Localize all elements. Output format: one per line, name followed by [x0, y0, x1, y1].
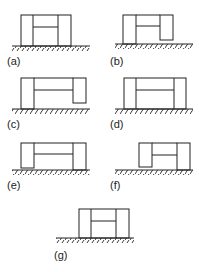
panel-a-label: (a): [7, 56, 20, 67]
panel-f-label: (f): [110, 180, 120, 191]
panel-g-frame: [56, 209, 134, 243]
panel-a-frame: [12, 15, 90, 51]
panel-e-label: (e): [7, 180, 20, 191]
panel-c-frame: [12, 78, 90, 114]
panel-f-frame: [115, 143, 193, 175]
panel-c-label: (c): [7, 119, 20, 130]
panel-d-frame: [115, 78, 193, 114]
panel-b-label: (b): [110, 56, 123, 67]
frame-diagram: [0, 0, 199, 272]
panel-g-label: (g): [54, 250, 67, 261]
panel-b-frame: [115, 15, 193, 49]
panel-d-label: (d): [110, 119, 123, 130]
panel-e-frame: [12, 143, 90, 175]
